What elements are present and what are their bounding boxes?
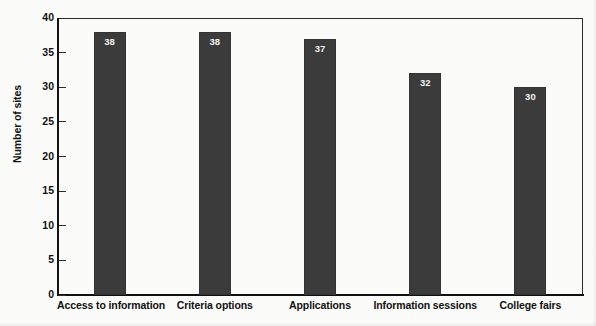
category-label: College fairs <box>478 299 583 311</box>
y-tick-20 <box>59 156 66 157</box>
category-label: Applications <box>267 299 372 311</box>
bar: 37 <box>304 39 336 295</box>
bar: 32 <box>409 73 441 295</box>
y-tick-40 <box>59 18 66 19</box>
y-tick-30 <box>59 87 66 88</box>
category-label: Information sessions <box>373 299 478 311</box>
y-tick-label-15: 15 <box>14 185 54 196</box>
y-tick-label-20: 20 <box>14 151 54 162</box>
y-tick-25 <box>59 121 66 122</box>
bar: 30 <box>514 87 546 295</box>
bar-value-label: 37 <box>305 44 335 54</box>
y-tick-10 <box>59 225 66 226</box>
y-tick-label-25: 25 <box>14 116 54 127</box>
y-tick-5 <box>59 260 66 261</box>
y-tick-0 <box>59 295 66 296</box>
bar-value-label: 38 <box>95 37 125 47</box>
bar: 38 <box>199 32 231 295</box>
scan-shadow-bottom <box>0 322 596 326</box>
y-tick-label-30: 30 <box>14 81 54 92</box>
y-axis-line <box>57 18 59 296</box>
y-tick-label-35: 35 <box>14 47 54 58</box>
y-tick-35 <box>59 52 66 53</box>
y-tick-15 <box>59 191 66 192</box>
y-tick-label-0: 0 <box>14 289 54 300</box>
y-tick-label-10: 10 <box>14 220 54 231</box>
bar-value-label: 38 <box>200 37 230 47</box>
bar-value-label: 32 <box>410 78 440 88</box>
scan-shadow-right <box>592 0 596 326</box>
y-tick-label-5: 5 <box>14 254 54 265</box>
bar-value-label: 30 <box>515 92 545 102</box>
y-tick-label-40: 40 <box>14 12 54 23</box>
category-label: Criteria options <box>162 299 267 311</box>
category-label: Access to information <box>57 299 162 311</box>
bar-chart-figure: Number of sites 0510152025303540 3838373… <box>0 0 596 326</box>
bar: 38 <box>94 32 126 295</box>
